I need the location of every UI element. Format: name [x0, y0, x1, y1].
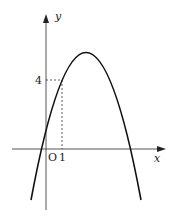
- x-tick-label: 1: [59, 151, 66, 164]
- y-axis-arrow-icon: [43, 14, 49, 23]
- y-axis-label: y: [55, 10, 61, 23]
- y-tick-label: 4: [35, 74, 42, 87]
- parabola-graph: [0, 0, 173, 218]
- x-axis-label: x: [154, 152, 160, 165]
- origin-label: O: [48, 151, 57, 164]
- parabola-curve: [31, 53, 141, 201]
